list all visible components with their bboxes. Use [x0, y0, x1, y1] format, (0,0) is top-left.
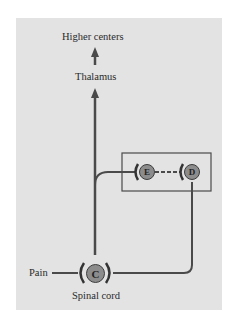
node-d: D [184, 164, 200, 180]
node-c: C [86, 264, 105, 283]
label-higher-centers: Higher centers [62, 31, 124, 42]
label-spinal-cord: Spinal cord [72, 290, 120, 301]
label-thalamus: Thalamus [75, 71, 116, 82]
label-pain: Pain [29, 267, 48, 278]
pathway-lines [0, 0, 233, 329]
node-e: E [139, 164, 155, 180]
